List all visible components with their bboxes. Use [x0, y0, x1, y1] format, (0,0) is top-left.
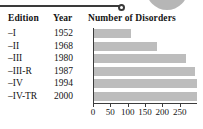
bar — [94, 92, 197, 101]
row-label-year: 1980 — [54, 53, 73, 63]
x-axis-tick-label: 200 — [156, 107, 170, 117]
x-axis-tick-label: 0 — [91, 107, 96, 117]
row-label-edition: –I — [8, 28, 16, 38]
row-label-edition: –IV-TR — [8, 91, 37, 101]
bar — [94, 42, 157, 51]
column-header-edition: Edition — [8, 13, 39, 23]
circle-endpoint-icon — [118, 4, 125, 11]
row-label-year: 1987 — [54, 66, 73, 76]
chart-figure: Edition Year Number of Disorders –I1952–… — [0, 0, 203, 129]
row-label-edition: –III — [8, 53, 22, 63]
x-axis-tick-label: 100 — [121, 107, 135, 117]
horizontal-rule-decoration — [0, 5, 120, 7]
row-label-edition: –IV — [8, 78, 23, 88]
x-axis-tick-label: 250 — [173, 107, 187, 117]
column-header-year: Year — [53, 13, 72, 23]
dsm-editions-chart: Edition Year Number of Disorders –I1952–… — [0, 13, 203, 129]
row-label-edition: –II — [8, 41, 19, 51]
gray-rounded-blob-decoration — [146, 0, 188, 10]
bar — [94, 54, 186, 63]
bar — [94, 79, 197, 88]
row-label-edition: –III-R — [8, 66, 32, 76]
bar — [94, 29, 131, 38]
row-label-year: 1994 — [54, 78, 73, 88]
plot-area: 050100150200250 — [93, 28, 201, 103]
row-label-year: 1952 — [54, 28, 73, 38]
row-label-year: 1968 — [54, 41, 73, 51]
row-label-year: 2000 — [54, 91, 73, 101]
x-axis-tick-label: 50 — [106, 107, 115, 117]
bar — [94, 67, 195, 76]
x-axis-tick-label: 150 — [138, 107, 152, 117]
column-header-disorders: Number of Disorders — [88, 13, 176, 23]
